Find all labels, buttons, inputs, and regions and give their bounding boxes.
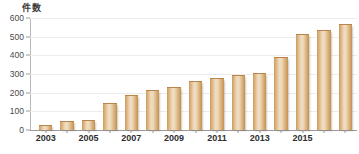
x-axis-tick-mark (281, 130, 282, 133)
bar (232, 75, 245, 130)
bar (146, 90, 159, 130)
x-axis-tick-mark (238, 130, 239, 133)
x-axis-tick-label: 2003 (36, 133, 56, 143)
x-axis-line (30, 130, 357, 131)
x-axis-ticks: 2003200520072009201120132015 (30, 132, 357, 152)
x-axis-tick-label: 2013 (250, 133, 270, 143)
bar-chart: 件数 0100200300400500600 20032005200720092… (0, 0, 359, 154)
bar-series (30, 18, 357, 130)
bar (60, 121, 73, 130)
bar (103, 103, 116, 130)
x-axis-tick-mark (67, 130, 68, 133)
bar (253, 73, 266, 130)
bar (317, 30, 330, 130)
bar (210, 78, 223, 130)
x-axis-tick-label: 2011 (207, 133, 227, 143)
y-axis-tick-label: 600 (0, 13, 24, 23)
x-axis-tick-label: 2015 (292, 133, 312, 143)
y-axis-tick-label: 400 (0, 50, 24, 60)
x-axis-tick-label: 2007 (121, 133, 141, 143)
x-axis-tick-label: 2005 (78, 133, 98, 143)
plot-area: 0100200300400500600 (30, 18, 357, 130)
x-axis-tick-mark (323, 130, 324, 133)
y-axis-tick-label: 200 (0, 88, 24, 98)
y-axis-tick-label: 300 (0, 69, 24, 79)
bar (125, 95, 138, 130)
y-axis-tick-label: 500 (0, 32, 24, 42)
x-axis-tick-label: 2009 (164, 133, 184, 143)
bar (274, 57, 287, 130)
x-axis-tick-mark (195, 130, 196, 133)
x-axis-tick-mark (345, 130, 346, 133)
y-axis-tick-label: 100 (0, 106, 24, 116)
x-axis-tick-mark (152, 130, 153, 133)
bar (82, 120, 95, 130)
bar (296, 34, 309, 130)
y-axis-title: 件数 (22, 1, 41, 14)
x-axis-tick-mark (109, 130, 110, 133)
bar (339, 24, 352, 130)
y-axis-tick-label: 0 (0, 125, 24, 135)
bar (189, 81, 202, 130)
bar (167, 87, 180, 130)
